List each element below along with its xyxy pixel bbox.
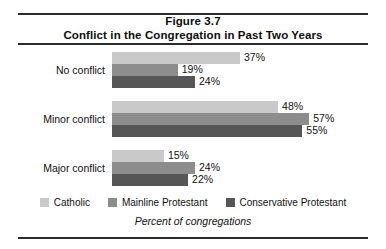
legend-item-conservative-protestant[interactable]: Conservative Protestant xyxy=(226,197,347,208)
bar-value-label: 55% xyxy=(306,124,327,137)
chart-legend: Catholic Mainline Protestant Conservativ… xyxy=(0,197,386,208)
legend-swatch-icon xyxy=(226,198,235,207)
bar-row: 48% xyxy=(112,101,386,113)
category-label: Minor conflict xyxy=(0,113,105,125)
bar-conservative-protestant[interactable] xyxy=(112,174,188,186)
bar-mainline-protestant[interactable] xyxy=(112,162,195,174)
bar-row: 22% xyxy=(112,174,386,186)
legend-label: Conservative Protestant xyxy=(240,197,347,208)
bar-value-label: 37% xyxy=(244,51,265,64)
bar-value-label: 22% xyxy=(192,173,213,186)
bar-catholic[interactable] xyxy=(112,150,164,162)
bar-row: 57% xyxy=(112,113,386,125)
bar-row: 24% xyxy=(112,162,386,174)
bar-catholic[interactable] xyxy=(112,101,278,113)
figure-number: Figure 3.7 xyxy=(0,15,386,29)
rule-bottom xyxy=(18,237,368,239)
legend-label: Catholic xyxy=(54,197,90,208)
legend-swatch-icon xyxy=(40,198,49,207)
bar-row: 37% xyxy=(112,52,386,64)
bar-stack: 15% 24% 22% xyxy=(112,150,386,186)
bar-conservative-protestant[interactable] xyxy=(112,125,302,137)
legend-label: Mainline Protestant xyxy=(122,197,208,208)
bar-row: 24% xyxy=(112,76,386,88)
bar-row: 19% xyxy=(112,64,386,76)
bar-value-label: 15% xyxy=(168,149,189,162)
figure-title-block: Figure 3.7 Conflict in the Congregation … xyxy=(0,15,386,42)
bar-value-label: 24% xyxy=(199,75,220,88)
bar-conservative-protestant[interactable] xyxy=(112,76,195,88)
bar-stack: 37% 19% 24% xyxy=(112,52,386,88)
category-label: Major conflict xyxy=(0,162,105,174)
figure-title: Conflict in the Congregation in Past Two… xyxy=(0,29,386,43)
bar-mainline-protestant[interactable] xyxy=(112,113,309,125)
bar-value-label: 48% xyxy=(282,100,303,113)
bar-row: 55% xyxy=(112,125,386,137)
legend-item-mainline-protestant[interactable]: Mainline Protestant xyxy=(108,197,208,208)
bar-mainline-protestant[interactable] xyxy=(112,64,178,76)
legend-item-catholic[interactable]: Catholic xyxy=(40,197,90,208)
bar-row: 15% xyxy=(112,150,386,162)
legend-swatch-icon xyxy=(108,198,117,207)
bar-stack: 48% 57% 55% xyxy=(112,101,386,137)
bar-catholic[interactable] xyxy=(112,52,240,64)
category-label: No conflict xyxy=(0,64,105,76)
chart-plot-area: No conflict 37% 19% 24% Minor conflict xyxy=(0,48,386,193)
figure-container: Figure 3.7 Conflict in the Congregation … xyxy=(0,0,386,249)
axis-caption: Percent of congregations xyxy=(0,215,386,227)
rule-below-title xyxy=(18,43,368,45)
